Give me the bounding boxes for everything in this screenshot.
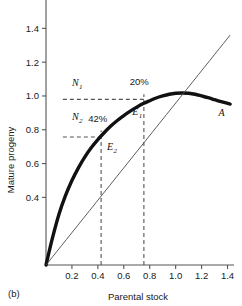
- annotation-pct-42: 42%: [88, 113, 108, 124]
- y-tick-label: 0.8: [26, 124, 39, 135]
- annotation-n1: N1: [71, 77, 83, 91]
- curve-replacement-line: [46, 35, 230, 265]
- x-axis-title: Parental stock: [108, 291, 168, 302]
- annotation-curve-label-a: A: [217, 107, 225, 118]
- panel-label: (b): [8, 288, 20, 299]
- x-tick-label: 1.4: [221, 270, 234, 281]
- annotation-pct-20: 20%: [130, 76, 150, 87]
- annotation-e1: E1: [131, 106, 142, 120]
- y-tick-label: 1.4: [26, 23, 39, 34]
- x-tick-label: 1.0: [169, 270, 182, 281]
- y-axis-title: Mature progeny: [5, 126, 16, 193]
- x-tick-label: 0.8: [143, 270, 156, 281]
- x-tick-label: 0.2: [65, 270, 78, 281]
- x-tick-label: 0.4: [91, 270, 104, 281]
- annotation-e2: E2: [106, 141, 118, 155]
- x-tick-label: 0.6: [117, 270, 130, 281]
- axes-layer: 0.40.60.81.01.21.40.20.40.60.81.01.21.4: [26, 0, 234, 281]
- series-layer: [46, 35, 230, 265]
- y-tick-label: 0.6: [26, 158, 39, 169]
- chart-canvas: 0.40.60.81.01.21.40.20.40.60.81.01.21.4 …: [0, 0, 242, 306]
- x-tick-label: 1.2: [195, 270, 208, 281]
- figure-panel-b: 0.40.60.81.01.21.40.20.40.60.81.01.21.4 …: [0, 0, 242, 306]
- y-tick-label: 1.0: [26, 90, 39, 101]
- y-tick-label: 1.2: [26, 57, 39, 68]
- y-tick-label: 0.4: [26, 192, 39, 203]
- annotation-n2: N2: [71, 111, 83, 125]
